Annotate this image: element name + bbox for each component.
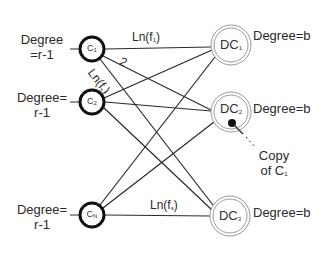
c1-degree-line2: =r-1: [16, 47, 68, 62]
edge-c2-dc2: [105, 102, 211, 111]
c2-degree-line2: r-1: [14, 105, 70, 120]
c2-label: C2: [79, 96, 105, 106]
dc1-label-sub: 1: [239, 45, 242, 51]
cn-label: CN: [79, 209, 105, 219]
c2-label-sub: 2: [94, 100, 97, 106]
c2-degree-label: Degree= r-1: [14, 90, 70, 120]
dc2-label: DC2: [211, 101, 251, 116]
edge-c2-dc3: [103, 107, 212, 210]
edge-label-ln-fs-bottom: Ln(fs): [150, 198, 178, 216]
cn-label-sub: N: [93, 213, 97, 219]
copy-annotation-line1: Copy: [252, 148, 296, 163]
cn-degree-line2: r-1: [14, 217, 70, 232]
edge-label-ln-f1-main: Ln(f: [132, 30, 153, 44]
copy-annotation-line2-sub: 1: [284, 171, 287, 177]
dc2-label-main: DC: [220, 101, 239, 116]
dc3-degree-label: Degree=b: [253, 205, 310, 220]
dc3-label-main: DC: [219, 208, 238, 223]
dc1-label-main: DC: [220, 37, 239, 52]
edge-cn-dc1: [100, 57, 215, 205]
c1-degree-label: Degree =r-1: [16, 32, 68, 62]
dc1-label: DC1: [211, 37, 251, 52]
cn-degree-label: Degree= r-1: [14, 202, 70, 232]
edge-label-ln-f1: Ln(f1): [132, 30, 160, 48]
copy-annotation: Copy of C1: [252, 148, 296, 182]
c1-label: C1: [79, 43, 105, 53]
dc1-degree-label: Degree=b: [253, 28, 310, 43]
dc3-label-sub: 3: [238, 216, 241, 222]
edge-label-ln-f1-close: ): [156, 30, 160, 44]
edge-label-ln-fs-bottom-main: Ln(f: [150, 198, 171, 212]
dc2-degree-label: Degree=b: [253, 101, 310, 116]
edge-label-ln-fs-bottom-close: ): [174, 198, 178, 212]
c2-degree-line1: Degree=: [14, 90, 70, 105]
copy-leader-dashed: [246, 137, 256, 148]
copy-annotation-line2: of C1: [252, 163, 296, 182]
copy-annotation-line2-main: of C: [260, 163, 284, 178]
cn-degree-line1: Degree=: [14, 202, 70, 217]
edge-c2-dc1: [104, 50, 212, 98]
dc2-label-sub: 2: [239, 109, 242, 115]
c1-degree-line1: Degree: [16, 32, 68, 47]
c1-label-sub: 1: [94, 47, 97, 53]
dc3-label: DC3: [210, 208, 250, 223]
